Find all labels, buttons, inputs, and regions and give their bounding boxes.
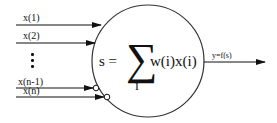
input-label-xn: x(n): [23, 86, 40, 96]
formula-term: w(i)x(i): [150, 54, 197, 69]
output-label: y=f(s): [212, 52, 232, 60]
formula-lhs: s =: [99, 54, 117, 69]
input-label-x1: x(1): [23, 13, 40, 23]
inhibitory-circle-xn-1: [93, 85, 99, 91]
ellipsis-dot: [31, 53, 34, 56]
sum-index: i: [135, 79, 139, 93]
ellipsis-dot: [31, 65, 34, 68]
inhibitory-circle-xn: [104, 94, 110, 100]
ellipsis-dot: [31, 59, 34, 62]
input-label-x2: x(2): [23, 31, 40, 41]
